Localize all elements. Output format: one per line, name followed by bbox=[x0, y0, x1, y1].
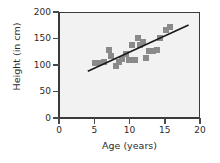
x-tick-label: 10 bbox=[118, 126, 142, 135]
y-tick-mark bbox=[53, 91, 59, 93]
x-tick-mark bbox=[199, 118, 201, 124]
x-axis-title: Age (years) bbox=[59, 140, 200, 151]
y-tick-label: 0 bbox=[45, 114, 51, 123]
x-tick-label: 0 bbox=[47, 126, 71, 135]
x-tick-mark bbox=[129, 118, 131, 124]
y-tick-mark bbox=[53, 38, 59, 40]
y-tick-label: 50 bbox=[40, 87, 51, 96]
y-axis-title: Height (in cm) bbox=[11, 2, 22, 112]
x-tick-label: 15 bbox=[153, 126, 177, 135]
trend-line-layer bbox=[60, 13, 199, 117]
y-tick-label: 150 bbox=[34, 34, 51, 43]
y-tick-mark bbox=[53, 11, 59, 13]
y-tick-label: 200 bbox=[34, 8, 51, 17]
trend-line bbox=[88, 25, 189, 71]
x-tick-label: 20 bbox=[188, 126, 212, 135]
y-tick-label: 100 bbox=[34, 61, 51, 70]
scatter-chart-figure: 050100150200 05101520 Height (in cm) Age… bbox=[0, 0, 220, 163]
x-tick-label: 5 bbox=[82, 126, 106, 135]
y-tick-mark bbox=[53, 64, 59, 66]
x-tick-mark bbox=[164, 118, 166, 124]
x-tick-mark bbox=[94, 118, 96, 124]
plot-area bbox=[59, 12, 200, 118]
x-tick-mark bbox=[58, 118, 60, 124]
